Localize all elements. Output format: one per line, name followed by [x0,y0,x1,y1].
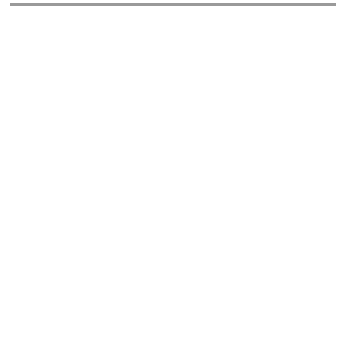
puzzle-outline [0,0,339,364]
